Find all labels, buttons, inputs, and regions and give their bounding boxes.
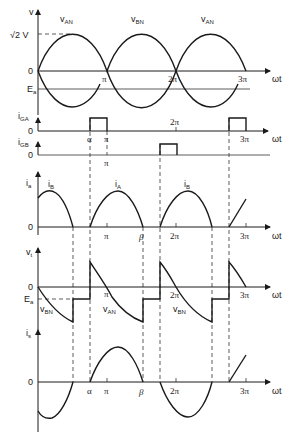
svg-text:0: 0 [28,377,33,387]
svg-text:ωt: ωt [272,134,282,144]
svg-text:π: π [104,386,109,396]
svg-text:0: 0 [28,282,33,292]
gate-b-panel: iGB 0 π [18,137,270,168]
v-axis-label: v [29,7,34,17]
curve-label-vbn-1: vBN [40,304,53,315]
tick-pi: π [102,74,107,84]
curve-label-van: vAN [103,304,116,315]
svg-text:π: π [104,231,109,241]
svg-text:β: β [138,387,144,397]
is-label: is [26,328,31,339]
dashed-guides [73,118,229,382]
svg-text:π: π [104,134,109,144]
armature-current-panel: ia 0 iB iA iB π β 2π 3π ωt [26,172,282,242]
svg-text:2π: 2π [170,231,180,241]
curve-label-van-2: vAN [201,14,214,25]
svg-text:π: π [104,289,109,299]
svg-text:ωt: ωt [272,386,282,396]
svg-text:2π: 2π [170,117,180,127]
curve-label-van-1: vAN [60,14,73,25]
iga-zero: 0 [28,126,33,136]
tick-3pi: 3π [238,74,248,84]
curve-label-ib-2: iB [184,179,190,190]
vt-label: vt [26,247,33,258]
svg-text:ωt: ωt [272,231,282,241]
svg-text:ωt: ωt [272,290,282,300]
supply-current-panel: is 0 α π β 2π 3π ωt [26,328,282,432]
svg-text:α: α [87,386,92,396]
igb-label: iGB [18,137,29,148]
svg-text:π: π [104,158,109,168]
curve-label-ia: iA [115,179,121,190]
ia-label: ia [26,178,32,189]
svg-text:3π: 3π [240,290,250,300]
svg-text:3π: 3π [240,386,250,396]
curve-label-vbn: vBN [131,14,144,25]
converter-waveform-diagram: v √2 V 0 Ea vAN vBN vAN π 2π 3π ωt iGA 0… [0,0,293,438]
svg-text:3π: 3π [240,231,250,241]
peak-label: √2 V [10,30,28,40]
tick-2pi: 2π [168,74,178,84]
svg-text:3π: 3π [240,134,250,144]
terminal-voltage-panel: vt 0 Ea π 2π 3π ωt vBN vAN vBN [24,247,282,330]
svg-text:0: 0 [28,150,33,160]
svg-text:2π: 2π [170,290,180,300]
curve-label-vbn-2: vBN [173,304,186,315]
zero-label: 0 [28,66,33,76]
tick-alpha: α [87,134,92,144]
curve-label-ib-1: iB [48,179,54,190]
iga-label: iGA [18,111,29,122]
wt-label: ωt [272,74,282,84]
svg-text:2π: 2π [170,386,180,396]
gate-a-panel: iGA 0 α π 2π 3π ωt [18,111,282,144]
svg-text:0: 0 [28,222,33,232]
vt-ea-label: Ea [24,294,34,305]
supply-voltage-panel: v √2 V 0 Ea vAN vBN vAN π 2π 3π ωt [10,7,282,115]
tick-beta: β [138,232,144,242]
ea-label: Ea [27,84,37,95]
